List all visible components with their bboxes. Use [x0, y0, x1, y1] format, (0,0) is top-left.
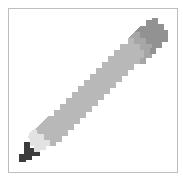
pencil-icon: [0, 0, 183, 178]
pencil-body: [36, 38, 144, 146]
